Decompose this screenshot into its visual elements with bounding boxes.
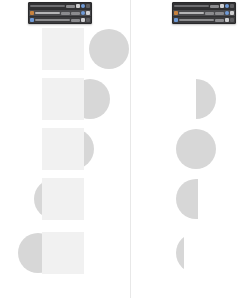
- layer-row-pale-icon[interactable]: [225, 18, 229, 22]
- source-frame: [0, 28, 130, 70]
- layer-row-label: [174, 5, 209, 7]
- panel-divider: [130, 0, 131, 298]
- layer-row-value-field[interactable]: [66, 5, 75, 8]
- result-circle: [196, 79, 216, 119]
- layer-row-faint-icon[interactable]: [230, 4, 234, 8]
- layer-row-value-field[interactable]: [210, 5, 219, 8]
- layers-panel-right[interactable]: [172, 2, 236, 24]
- layer-color-swatch-icon: [30, 11, 34, 15]
- layers-panel-left[interactable]: [28, 2, 92, 24]
- figure-canvas: [0, 0, 249, 298]
- source-square: [42, 78, 84, 120]
- layer-row-label: [30, 5, 65, 7]
- source-square: [42, 232, 84, 274]
- layer-row-label: [35, 12, 60, 14]
- result-circle: [176, 129, 216, 169]
- layer-row-label: [179, 19, 214, 21]
- result-clip-region: [196, 79, 216, 119]
- layer-row[interactable]: [29, 3, 91, 10]
- layer-row[interactable]: [29, 10, 91, 17]
- layer-row-blue-icon[interactable]: [225, 4, 229, 8]
- layer-row[interactable]: [29, 17, 91, 23]
- layer-row-faint-icon[interactable]: [86, 4, 90, 8]
- layer-row-pale-icon[interactable]: [76, 4, 80, 8]
- layer-row-pale-icon[interactable]: [86, 11, 90, 15]
- source-square: [42, 28, 84, 70]
- layer-row[interactable]: [173, 17, 235, 23]
- source-frame: [0, 178, 130, 220]
- layer-row-pale-icon[interactable]: [81, 18, 85, 22]
- source-square: [42, 178, 84, 220]
- layer-row-blue-icon[interactable]: [225, 11, 229, 15]
- source-frame: [0, 232, 130, 274]
- layer-row-pale-icon[interactable]: [230, 11, 234, 15]
- layer-row-label: [179, 12, 204, 14]
- layer-row-label: [35, 19, 70, 21]
- layer-row-faint-icon[interactable]: [230, 18, 234, 22]
- layer-row-value-field[interactable]: [61, 12, 70, 15]
- source-square: [42, 128, 84, 170]
- source-frame: [0, 128, 130, 170]
- layer-color-swatch-icon: [174, 18, 178, 22]
- layer-color-swatch-icon: [30, 18, 34, 22]
- layer-row-value-field[interactable]: [215, 12, 224, 15]
- layer-color-swatch-icon: [174, 11, 178, 15]
- result-circle: [176, 179, 198, 219]
- result-circle: [176, 233, 184, 273]
- layer-row-value-field[interactable]: [71, 19, 80, 22]
- layer-row[interactable]: [173, 10, 235, 17]
- result-clip-region: [176, 179, 198, 219]
- layer-row-faint-icon[interactable]: [86, 18, 90, 22]
- layer-row[interactable]: [173, 3, 235, 10]
- result-clip-region: [176, 233, 184, 273]
- layer-row-value-field[interactable]: [205, 12, 214, 15]
- layer-row-pale-icon[interactable]: [220, 4, 224, 8]
- layer-row-value-field[interactable]: [215, 19, 224, 22]
- layer-row-value-field[interactable]: [71, 12, 80, 15]
- layer-row-blue-icon[interactable]: [81, 11, 85, 15]
- result-clip-region: [176, 129, 216, 169]
- layer-row-blue-icon[interactable]: [81, 4, 85, 8]
- source-circle: [89, 29, 129, 69]
- source-frame: [0, 78, 130, 120]
